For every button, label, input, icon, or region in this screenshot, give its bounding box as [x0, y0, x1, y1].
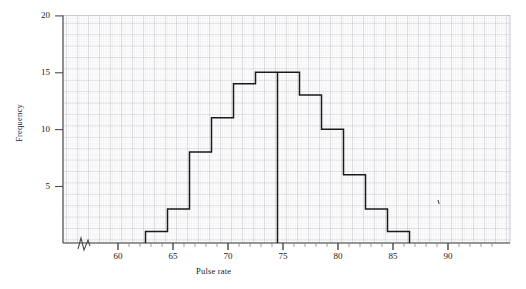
x-tick-label-65: 65	[161, 251, 185, 261]
histogram-figure: 20 15 10 5 60 65 70 75 80 85 90 Frequenc…	[0, 0, 526, 289]
x-tick-label-90: 90	[436, 251, 460, 261]
x-tick-label-60: 60	[106, 251, 130, 261]
x-axis-title: Pulse rate	[196, 266, 231, 276]
y-tick-label-15: 15	[28, 67, 50, 77]
y-axis-ticks	[55, 16, 63, 187]
y-tick-label-5: 5	[28, 181, 50, 191]
x-tick-label-70: 70	[216, 251, 240, 261]
x-tick-label-85: 85	[381, 251, 405, 261]
y-tick-label-20: 20	[28, 10, 50, 20]
x-axis-ticks	[118, 243, 448, 250]
chart-canvas	[0, 0, 526, 289]
grid-area	[63, 16, 510, 244]
y-tick-label-10: 10	[28, 124, 50, 134]
x-tick-label-80: 80	[326, 251, 350, 261]
y-axis-title: Frequency	[14, 88, 24, 158]
x-axis-minor-ticks	[129, 243, 492, 247]
x-tick-label-75: 75	[271, 251, 295, 261]
